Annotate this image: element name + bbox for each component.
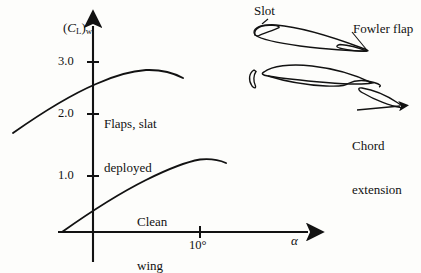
y-axis-label-symbol: C <box>67 20 76 35</box>
airfoil-clean-section <box>254 19 368 51</box>
callout-fowler-flap: Fowler flap <box>353 22 413 37</box>
callout-chord-extension: Chord extension <box>352 110 402 226</box>
x-tick-label-10: 10° <box>189 238 207 252</box>
callout-chord-extension-line2: extension <box>352 183 402 198</box>
series-label-clean-wing: Clean wing <box>137 186 167 273</box>
y-tick-label-3: 3.0 <box>58 54 74 68</box>
series-label-clean-line1: Clean <box>137 215 167 230</box>
airfoil-high-lift-deployed <box>250 65 403 110</box>
series-label-clean-line2: wing <box>137 259 167 273</box>
callout-chord-extension-line1: Chord <box>352 139 402 154</box>
series-label-flaps-line1: Flaps, slat <box>104 117 157 132</box>
y-axis-label: (CL)w <box>50 6 92 51</box>
callout-slot: Slot <box>254 4 275 19</box>
y-axis-label-sub-w: w <box>86 26 92 36</box>
y-tick-label-2: 2.0 <box>58 106 74 120</box>
x-axis-label: α <box>291 234 298 249</box>
y-tick-label-1: 1.0 <box>58 168 74 182</box>
series-label-flaps-line2: deployed <box>104 161 157 176</box>
figure-canvas: (CL)w α 3.0 2.0 1.0 10° Flaps, slat depl… <box>0 0 421 273</box>
